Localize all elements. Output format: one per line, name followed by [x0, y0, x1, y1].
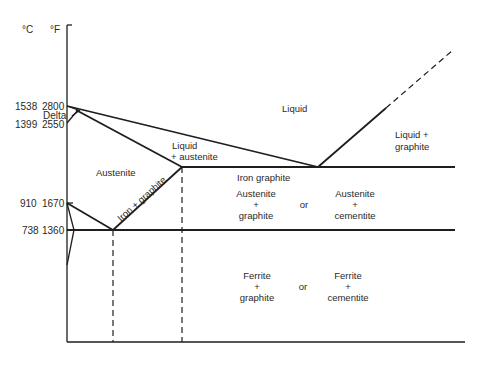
region-iron-graphite: Iron graphite: [237, 172, 290, 183]
fahrenheit-unit: °F: [50, 24, 60, 35]
solidus-line: [76, 110, 182, 167]
ferrite-boundary: [67, 203, 74, 265]
region-liquid-austenite-2: + austenite: [171, 151, 218, 162]
tick-1399c: 1399: [15, 119, 38, 130]
ferrite-cementite-3: cementite: [327, 292, 368, 303]
graphite-liquidus-dashed: [386, 50, 453, 108]
ferrite-cementite-2: +: [345, 281, 351, 292]
region-liquid: Liquid: [282, 103, 307, 114]
aus-graphite-3: graphite: [239, 210, 273, 221]
aus-graphite-2: +: [253, 199, 259, 210]
or-lower: or: [299, 281, 307, 292]
tick-738c: 738: [22, 225, 39, 236]
phase-diagram: °C °F 1538 2800 Delta 1399 2550 910 1670…: [0, 0, 478, 367]
region-liquid-graphite-1: Liquid +: [395, 129, 429, 140]
tick-2550f: 2550: [42, 119, 65, 130]
tick-1360f: 1360: [42, 225, 65, 236]
region-austenite: Austenite: [96, 167, 136, 178]
tick-1538c: 1538: [15, 101, 38, 112]
tick-910c: 910: [20, 198, 37, 209]
or-upper: or: [300, 199, 308, 210]
aus-cementite-3: cementite: [334, 210, 375, 221]
graphite-liquidus-line: [318, 108, 386, 167]
tick-1670f: 1670: [42, 198, 65, 209]
ferrite-graphite-3: graphite: [240, 292, 274, 303]
aus-cementite-2: +: [352, 199, 358, 210]
ferrite-graphite-1: Ferrite: [243, 270, 270, 281]
a3-line: [67, 203, 113, 230]
ferrite-cementite-1: Ferrite: [334, 270, 361, 281]
ferrite-graphite-2: +: [254, 281, 260, 292]
region-liquid-graphite-2: graphite: [395, 141, 429, 152]
region-iron-graphite-diagonal: Iron + graphite: [115, 174, 168, 223]
celsius-unit: °C: [22, 24, 33, 35]
region-liquid-austenite-1: Liquid: [172, 140, 197, 151]
aus-cementite-1: Austenite: [335, 188, 375, 199]
aus-graphite-1: Austenite: [236, 188, 276, 199]
